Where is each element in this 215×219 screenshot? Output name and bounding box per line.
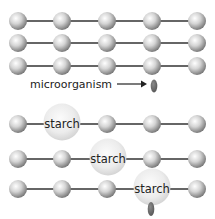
glucose-sphere: [9, 150, 27, 168]
glucose-sphere: [188, 57, 206, 75]
glucose-sphere: [9, 34, 27, 52]
glucose-sphere: [143, 115, 161, 133]
glucose-sphere: [53, 12, 71, 30]
glucose-sphere: [143, 34, 161, 52]
microorganism-icon: [148, 202, 155, 216]
starch-digestion-diagram: microorganism starch starch: [0, 0, 215, 219]
glucose-sphere: [9, 57, 27, 75]
glucose-sphere: [53, 150, 71, 168]
glucose-sphere: [9, 180, 27, 198]
glucose-sphere: [9, 115, 27, 133]
glucose-sphere: [98, 57, 116, 75]
glucose-sphere: [143, 150, 161, 168]
chain-row-5: starch: [9, 139, 206, 176]
glucose-sphere: [188, 180, 206, 198]
starch-label: starch: [134, 182, 170, 196]
chain-row-1: [9, 12, 206, 30]
glucose-sphere: [188, 12, 206, 30]
glucose-sphere: [53, 57, 71, 75]
microorganism-label: microorganism: [30, 78, 112, 91]
chain-row-2: [9, 34, 206, 52]
starch-label: starch: [90, 152, 126, 166]
glucose-sphere: [188, 115, 206, 133]
glucose-sphere: [53, 34, 71, 52]
glucose-sphere: [98, 12, 116, 30]
glucose-sphere: [143, 57, 161, 75]
glucose-sphere: [98, 115, 116, 133]
chain-row-3: [9, 57, 206, 75]
glucose-sphere: [53, 180, 71, 198]
starch-label: starch: [44, 117, 80, 131]
glucose-sphere: [188, 34, 206, 52]
glucose-sphere: [188, 150, 206, 168]
arrow-icon: [117, 81, 147, 88]
glucose-sphere: [98, 34, 116, 52]
bottom-panel: starch starch starch: [9, 104, 206, 217]
glucose-sphere: [143, 12, 161, 30]
microorganism-icon: [151, 80, 158, 93]
top-panel: microorganism: [9, 12, 206, 93]
chain-row-4: starch: [9, 104, 206, 141]
glucose-sphere: [98, 180, 116, 198]
glucose-sphere: [9, 12, 27, 30]
